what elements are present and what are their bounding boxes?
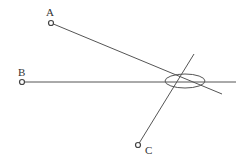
point-c-label: C	[145, 144, 152, 156]
line-from-a	[51, 23, 222, 94]
point-a-label: A	[46, 6, 54, 18]
line-from-c	[138, 54, 194, 145]
intersection-ellipse	[165, 74, 205, 88]
diagram-canvas: A B C	[0, 0, 250, 162]
point-b-marker	[20, 80, 25, 85]
point-a-marker	[49, 21, 54, 26]
point-b-label: B	[18, 66, 25, 78]
point-c-marker	[136, 143, 141, 148]
